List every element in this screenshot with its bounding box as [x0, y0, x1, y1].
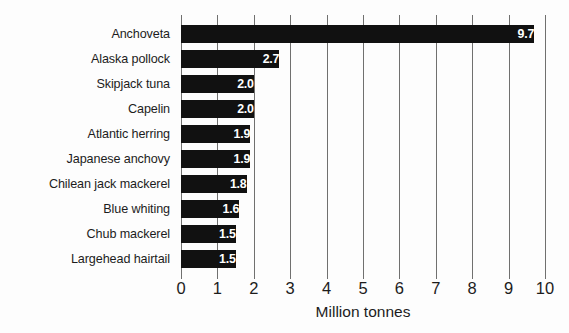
- tick-mark-bottom: [217, 272, 218, 279]
- value-axis-tick-label: 4: [307, 279, 347, 298]
- tick-mark-bottom: [472, 272, 473, 279]
- axis-title: Million tonnes: [181, 303, 545, 321]
- value-axis-tick-label: 1: [197, 279, 237, 298]
- tick-mark-top: [472, 15, 473, 21]
- value-axis-tick-label: 8: [452, 279, 492, 298]
- bar-value-label: 1.6: [181, 200, 243, 218]
- bar-value-label: 1.9: [181, 150, 254, 168]
- tick-mark-bottom: [399, 272, 400, 279]
- category-label: Japanese anchovy: [67, 150, 170, 168]
- category-label: Chilean jack mackerel: [49, 175, 170, 193]
- category-label: Skipjack tuna: [96, 75, 170, 93]
- category-label: Chub mackerel: [87, 225, 170, 243]
- bar-chart: AnchovetaAlaska pollockSkipjack tunaCape…: [0, 0, 569, 333]
- value-axis-tick-label: 9: [489, 279, 529, 298]
- bar-row: 2.0: [181, 75, 545, 93]
- tick-mark-bottom: [290, 272, 291, 279]
- tick-mark-top: [181, 15, 182, 21]
- category-axis: AnchovetaAlaska pollockSkipjack tunaCape…: [0, 21, 176, 272]
- bar-row: 9.7: [181, 25, 545, 43]
- value-axis-tick-label: 2: [234, 279, 274, 298]
- bar-value-label: 2.0: [181, 75, 258, 93]
- tick-mark-bottom: [509, 272, 510, 279]
- bar-value-label: 9.7: [181, 25, 538, 43]
- bar-value-label: 2.7: [181, 50, 283, 68]
- bar-row: 1.6: [181, 200, 545, 218]
- category-label: Blue whiting: [103, 200, 170, 218]
- tick-mark-top: [217, 15, 218, 21]
- bar-value-label: 1.8: [181, 175, 251, 193]
- tick-mark-top: [509, 15, 510, 21]
- category-label: Anchoveta: [111, 25, 170, 43]
- tick-mark-bottom: [181, 272, 182, 279]
- tick-mark-bottom: [327, 272, 328, 279]
- bar-row: 2.0: [181, 100, 545, 118]
- value-axis-tick-label: 10: [525, 279, 565, 298]
- tick-mark-bottom: [254, 272, 255, 279]
- tick-mark-top: [254, 15, 255, 21]
- tick-mark-top: [399, 15, 400, 21]
- category-label: Alaska pollock: [91, 50, 170, 68]
- tick-mark-top: [327, 15, 328, 21]
- tick-mark-bottom: [363, 272, 364, 279]
- bar-row: 2.7: [181, 50, 545, 68]
- bar-value-label: 1.5: [181, 250, 240, 268]
- plot-area: 9.72.72.02.01.91.91.81.61.51.5: [181, 21, 545, 272]
- bar-row: 1.9: [181, 150, 545, 168]
- category-label: Atlantic herring: [88, 125, 170, 143]
- gridline: [545, 21, 546, 272]
- bar-value-label: 1.5: [181, 225, 240, 243]
- value-axis-tick-label: 0: [161, 279, 201, 298]
- bar-row: 1.9: [181, 125, 545, 143]
- bar-row: 1.8: [181, 175, 545, 193]
- bar-row: 1.5: [181, 250, 545, 268]
- value-axis: 012345678910: [181, 279, 545, 301]
- bar-value-label: 1.9: [181, 125, 254, 143]
- tick-mark-top: [290, 15, 291, 21]
- tick-mark-top: [436, 15, 437, 21]
- bar-value-label: 2.0: [181, 100, 258, 118]
- category-label: Capelin: [128, 100, 170, 118]
- tick-mark-bottom: [436, 272, 437, 279]
- value-axis-tick-label: 6: [379, 279, 419, 298]
- tick-mark-top: [363, 15, 364, 21]
- value-axis-tick-label: 7: [416, 279, 456, 298]
- bar-row: 1.5: [181, 225, 545, 243]
- tick-mark-top: [545, 15, 546, 21]
- category-label: Largehead hairtail: [71, 250, 170, 268]
- value-axis-tick-label: 5: [343, 279, 383, 298]
- tick-mark-bottom: [545, 272, 546, 279]
- value-axis-tick-label: 3: [270, 279, 310, 298]
